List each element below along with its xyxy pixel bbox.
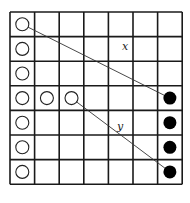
filled-circle-icon — [163, 165, 176, 178]
line-label-x: x — [122, 40, 129, 53]
filled-circle-icon — [163, 141, 176, 154]
open-circle-icon — [16, 116, 29, 129]
open-circle-icon — [65, 92, 78, 105]
filled-circle-icon — [163, 116, 176, 129]
line-label-y: y — [116, 120, 124, 133]
open-circle-icon — [16, 92, 29, 105]
open-circle-icon — [16, 42, 29, 55]
open-circle-icon — [16, 141, 29, 154]
open-circles — [16, 18, 78, 179]
grid-lines — [10, 12, 182, 184]
open-circle-icon — [40, 92, 53, 105]
open-circle-icon — [16, 165, 29, 178]
open-circle-icon — [16, 67, 29, 80]
grid-diagram: x y — [0, 0, 190, 203]
filled-circle-icon — [163, 92, 176, 105]
open-circle-icon — [16, 18, 29, 31]
